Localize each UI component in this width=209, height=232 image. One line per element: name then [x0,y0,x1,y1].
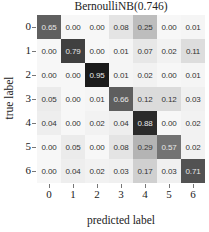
heatmap-cell: 0.11 [181,39,205,63]
heatmap-cell: 0.71 [181,159,205,183]
heatmap-cell: 0.95 [85,63,109,87]
y-tick-mark [32,99,36,100]
y-tick-mark [32,147,36,148]
heatmap-cell: 0.01 [109,63,133,87]
heatmap-cell: 0.01 [181,63,205,87]
y-tick-mark [32,171,36,172]
x-tick-mark [97,184,98,188]
heatmap-cell: 0.07 [133,39,157,63]
heatmap-cell: 0.00 [61,87,85,111]
heatmap-cell: 0.03 [157,159,181,183]
heatmap-cell: 0.00 [85,39,109,63]
heatmap-cell: 0.00 [157,63,181,87]
x-tick-mark [169,184,170,188]
y-tick-mark [32,51,36,52]
heatmap-cell: 0.00 [85,15,109,39]
heatmap-cell: 0.05 [37,87,61,111]
heatmap-cell: 0.01 [109,39,133,63]
heatmap-cell: 0.29 [133,135,157,159]
heatmap-cell: 0.02 [181,135,205,159]
y-tick-label: 5 [17,140,31,152]
y-tick-label: 3 [17,92,31,104]
heatmap-cell: 0.17 [133,159,157,183]
heatmap-cell: 0.03 [109,159,133,183]
y-tick-mark [32,123,36,124]
heatmap-cell: 0.00 [157,111,181,135]
y-tick-label: 6 [17,164,31,176]
x-tick-label: 3 [109,188,133,200]
heatmap-cell: 0.03 [181,87,205,111]
heatmap-cell: 0.01 [85,87,109,111]
x-tick-mark [193,184,194,188]
heatmap-cell: 0.04 [37,111,61,135]
y-tick-label: 2 [17,68,31,80]
x-axis-label: predicted label [37,214,205,226]
heatmap-cell: 0.02 [133,63,157,87]
heatmap-cell: 0.00 [37,135,61,159]
heatmap-cell: 0.00 [85,135,109,159]
heatmap-cell: 0.02 [181,111,205,135]
heatmap-cell: 0.00 [61,63,85,87]
heatmap-cell: 0.02 [85,111,109,135]
heatmap-cell: 0.02 [157,39,181,63]
x-tick-label: 2 [85,188,109,200]
y-tick-label: 4 [17,116,31,128]
heatmap-cell: 0.12 [133,87,157,111]
heatmap-cell: 0.66 [109,87,133,111]
heatmap-cell: 0.01 [181,15,205,39]
x-tick-label: 1 [61,188,85,200]
heatmap-cell: 0.00 [37,159,61,183]
y-tick-mark [32,27,36,28]
y-tick-label: 0 [17,20,31,32]
x-tick-label: 5 [157,188,181,200]
y-tick-mark [32,75,36,76]
y-tick-label: 1 [17,44,31,56]
heatmap-cell: 0.65 [37,15,61,39]
y-axis-label: true label [3,63,15,133]
chart-title: BernoulliNB(0.746) [37,0,205,12]
heatmap-cell: 0.88 [133,111,157,135]
heatmap-cell: 0.08 [109,15,133,39]
heatmap-cell: 0.00 [61,111,85,135]
heatmap-cell: 0.79 [61,39,85,63]
heatmap-cell: 0.02 [85,159,109,183]
heatmap-cell: 0.25 [133,15,157,39]
x-tick-mark [145,184,146,188]
x-tick-mark [49,184,50,188]
x-tick-mark [121,184,122,188]
heatmap-cell: 0.57 [157,135,181,159]
heatmap-grid: 0.650.000.000.080.250.000.010.000.790.00… [37,15,205,183]
x-tick-label: 4 [133,188,157,200]
heatmap-cell: 0.04 [109,111,133,135]
heatmap-cell: 0.00 [37,63,61,87]
heatmap-cell: 0.00 [61,15,85,39]
x-tick-label: 0 [37,188,61,200]
heatmap-cell: 0.05 [61,135,85,159]
x-tick-label: 6 [181,188,205,200]
heatmap-cell: 0.00 [37,39,61,63]
heatmap-cell: 0.12 [157,87,181,111]
x-tick-mark [73,184,74,188]
heatmap-cell: 0.08 [109,135,133,159]
heatmap-cell: 0.00 [157,15,181,39]
heatmap-cell: 0.04 [61,159,85,183]
